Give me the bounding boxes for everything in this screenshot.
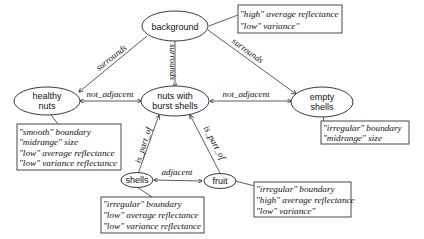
node-label-background: background bbox=[151, 22, 198, 32]
edge-shells-fruit: adjacent bbox=[154, 167, 202, 181]
semantic-network-diagram: surrounds surrounds surrounds not_adjace… bbox=[0, 0, 424, 239]
edge-fruit-nuts-burst: is_part_of bbox=[190, 115, 228, 173]
node-fruit: fruit bbox=[204, 174, 236, 189]
edge-shells-nuts-burst: is_part_of bbox=[133, 115, 159, 174]
attr-healthy-nuts-2: "low" average reflectance bbox=[19, 148, 115, 158]
node-label-healthy-nuts-2: nuts bbox=[38, 101, 56, 111]
attr-healthy-nuts-0: "smooth" boundary bbox=[19, 127, 92, 137]
node-healthy-nuts: healthy nuts bbox=[14, 87, 80, 115]
edge-burst-empty-shells: not_adjacent bbox=[210, 89, 291, 101]
attr-shells-2: "low" variance reflectance bbox=[103, 221, 201, 231]
node-label-healthy-nuts-1: healthy bbox=[32, 91, 62, 101]
attr-connector-shells bbox=[137, 187, 152, 197]
attr-shells-0: "irregular" boundary bbox=[103, 199, 182, 209]
node-nuts-with-burst-shells: nuts with burst shells bbox=[141, 86, 209, 116]
node-label-empty-shells-1: empty bbox=[310, 92, 335, 102]
edge-background-empty-shells: surrounds bbox=[208, 30, 296, 94]
attr-connector-fruit bbox=[235, 181, 255, 186]
attr-healthy-nuts-3: "low" variance reflectance bbox=[19, 158, 117, 168]
edge-label-is-part-of-left: is_part_of bbox=[133, 125, 154, 165]
attr-box-background: "high" average reflectance "low" varianc… bbox=[238, 5, 342, 33]
attr-fruit-0: "irregular" boundary bbox=[256, 184, 335, 194]
node-label-nuts-burst-1: nuts with bbox=[157, 91, 193, 101]
node-shells: shells bbox=[121, 173, 153, 188]
node-label-fruit: fruit bbox=[212, 176, 228, 186]
edge-healthy-nuts-burst: not_adjacent bbox=[80, 89, 141, 101]
edge-label-adjacent: adjacent bbox=[162, 167, 193, 177]
attr-shells-1: "low" average reflectance bbox=[103, 210, 199, 220]
edge-label-is-part-of-right: is_part_of bbox=[202, 124, 229, 163]
attr-fruit-1: "high" average reflectance bbox=[256, 195, 355, 205]
attr-box-empty-shells: "irregular" boundary "midrange" size bbox=[321, 121, 409, 144]
attr-box-shells: "irregular" boundary "low" average refle… bbox=[101, 197, 204, 233]
node-label-shells: shells bbox=[125, 175, 149, 185]
attr-background-1: "low" variance" bbox=[240, 21, 299, 31]
node-empty-shells: empty shells bbox=[291, 87, 353, 117]
attr-empty-shells-1: "midrange" size bbox=[323, 133, 382, 143]
edge-background-healthy-nuts: surrounds bbox=[79, 36, 147, 92]
node-label-empty-shells-2: shells bbox=[310, 102, 334, 112]
edge-label-not-adjacent-right: not_adjacent bbox=[223, 89, 270, 99]
edge-background-nuts-burst: surrounds bbox=[168, 38, 178, 87]
edge-label-surrounds-right: surrounds bbox=[230, 36, 266, 66]
node-background: background bbox=[142, 11, 208, 41]
edge-label-surrounds-middle: surrounds bbox=[168, 44, 178, 81]
node-label-nuts-burst-2: burst shells bbox=[152, 101, 198, 111]
attr-box-fruit: "irregular" boundary "high" average refl… bbox=[254, 182, 355, 217]
attr-background-0: "high" average reflectance bbox=[240, 9, 339, 19]
attr-empty-shells-0: "irregular" boundary bbox=[323, 123, 402, 133]
edge-label-surrounds-left: surrounds bbox=[94, 42, 129, 72]
edge-label-not-adjacent-left: not_adjacent bbox=[87, 89, 134, 99]
attr-healthy-nuts-1: "midrange" size bbox=[19, 137, 78, 147]
attr-connector-background bbox=[209, 15, 238, 26]
attr-fruit-2: "low" variance" bbox=[256, 206, 315, 216]
attr-box-healthy-nuts: "smooth" boundary "midrange" size "low" … bbox=[17, 124, 121, 170]
